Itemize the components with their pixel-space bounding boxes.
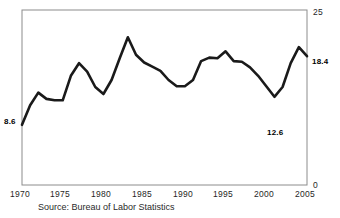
line-chart-canvas (0, 0, 340, 218)
annotation-end-value: 18.4 (312, 58, 328, 66)
x-axis-tick-labels: 1970 1975 1980 1985 1990 1995 2000 2005 (0, 190, 340, 202)
x-tick-2000: 2000 (254, 190, 274, 199)
y-tick-0: 0 (313, 181, 318, 190)
x-tick-1975: 1975 (50, 190, 70, 199)
x-tick-1970: 1970 (10, 190, 30, 199)
annotation-start-value: 8.6 (4, 118, 16, 126)
x-tick-2005: 2005 (295, 190, 315, 199)
x-tick-1995: 1995 (213, 190, 233, 199)
source-note: Source: Bureau of Labor Statistics (38, 203, 175, 212)
x-tick-1985: 1985 (132, 190, 152, 199)
chart-figure: 1970 1975 1980 1985 1990 1995 2000 2005 … (0, 0, 340, 218)
y-tick-25: 25 (313, 8, 323, 17)
annotation-trough-value: 12.6 (267, 129, 283, 137)
x-tick-1990: 1990 (173, 190, 193, 199)
x-tick-1980: 1980 (91, 190, 111, 199)
